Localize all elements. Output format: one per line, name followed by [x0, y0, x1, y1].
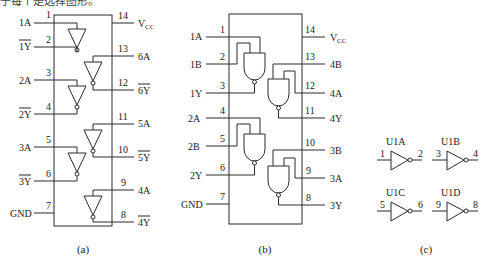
inverter-6-icon — [84, 56, 112, 90]
pin-label: 2A — [188, 113, 201, 124]
nand-gate-3-icon — [268, 150, 302, 205]
pin-num: 5 — [380, 199, 385, 210]
pin-label: 3A — [330, 173, 343, 184]
pin-num: 9 — [436, 199, 441, 210]
pin-num: 3 — [436, 148, 441, 159]
pin-num: 2 — [220, 51, 225, 62]
pin-num: 10 — [118, 144, 128, 155]
diagram-canvas: 1 1A 2 1Y 3 2A 4 2Y 5 3A 6 3Y 7 GND 14 V… — [0, 0, 486, 270]
pin-num: 3 — [220, 80, 225, 91]
pin-label: 4A — [138, 185, 151, 196]
pin-label-sub: CC — [145, 23, 155, 31]
inverter-u1c-icon: U1C 5 6 — [377, 187, 423, 221]
pin-label: 1A — [19, 17, 32, 28]
pin-label: 6A — [138, 51, 151, 62]
pin-num: 4 — [220, 105, 225, 116]
pin-num: 1 — [46, 9, 51, 20]
pin-num: 5 — [220, 133, 225, 144]
pin-num: 6 — [46, 168, 51, 179]
pin-num: 11 — [118, 111, 128, 122]
pin-label: 2B — [188, 141, 200, 152]
pin-num: 12 — [118, 77, 128, 88]
pin-label: 6Y — [138, 85, 150, 96]
pin-label: 4Y — [330, 113, 342, 124]
pin-label: 5Y — [138, 152, 150, 163]
nand-gate-1-icon — [229, 37, 265, 93]
pin-num: 1 — [380, 148, 385, 159]
pin-label: 2A — [19, 75, 32, 86]
pin-num: 9 — [121, 177, 126, 188]
part-name: U1A — [386, 136, 406, 147]
pin-num: 4 — [473, 148, 478, 159]
pin-label: 5A — [138, 118, 151, 129]
ic-body-b — [229, 14, 302, 224]
pin-num: 7 — [220, 191, 225, 202]
pin-label: GND — [10, 208, 32, 219]
pin-label: 3B — [330, 145, 342, 156]
pin-num: 2 — [46, 34, 51, 45]
pin-num: 13 — [305, 51, 315, 62]
nand-gate-2-icon — [229, 118, 265, 175]
pin-label: 4B — [330, 59, 342, 70]
figure-a-hex-inverter: 1 1A 2 1Y 3 2A 4 2Y 5 3A 6 3Y 7 GND 14 V… — [10, 9, 155, 228]
pin-num: 12 — [305, 80, 315, 91]
pin-label: 2Y — [19, 109, 31, 120]
inverter-u1d-icon: U1D 9 8 — [432, 187, 478, 221]
pin-num: 14 — [118, 10, 128, 21]
pin-num: 9 — [306, 165, 311, 176]
figure-c-inverter-symbols: U1A 1 2 U1B 3 4 U1C 5 6 — [377, 136, 478, 221]
pin-label: 4A — [330, 88, 343, 99]
pin-num: 2 — [418, 148, 423, 159]
pin-label: 1Y — [190, 88, 202, 99]
pin-num: 8 — [306, 192, 311, 203]
pin-label: 2Y — [190, 170, 202, 181]
part-name: U1C — [386, 187, 405, 198]
pin-num: 6 — [220, 162, 225, 173]
caption-a: (a) — [77, 243, 90, 256]
pin-label: GND — [181, 199, 203, 210]
pin-num: 1 — [220, 24, 225, 35]
pin-label: 3Y — [19, 176, 31, 187]
inverter-3-icon — [54, 147, 86, 181]
caption-c: (c) — [420, 243, 433, 256]
caption-b: (b) — [259, 243, 272, 256]
pin-label: 3Y — [330, 200, 342, 211]
inverter-2-icon — [54, 80, 86, 114]
pin-label: 1Y — [19, 41, 31, 52]
figure-b-quad-nand: 1 1A 2 1B 3 1Y 4 2A 5 2B 6 2Y 7 GND 14 V… — [181, 14, 347, 224]
part-name: U1D — [441, 187, 460, 198]
pin-num: 10 — [305, 137, 315, 148]
pin-num: 14 — [305, 24, 315, 35]
pin-label: 4Y — [138, 217, 150, 228]
inverter-1-icon — [54, 23, 86, 52]
nand-gate-4-icon — [268, 64, 302, 118]
pin-num: 4 — [46, 101, 51, 112]
pin-num: 6 — [418, 199, 423, 210]
pin-num: 11 — [305, 105, 315, 116]
pin-label-sub: CC — [337, 37, 347, 45]
pin-label: 3A — [19, 142, 32, 153]
pin-num: 3 — [46, 67, 51, 78]
pin-num: 7 — [46, 200, 51, 211]
inverter-5-icon — [84, 124, 112, 157]
pin-label: 1B — [190, 59, 202, 70]
inverter-u1a-icon: U1A 1 2 — [377, 136, 423, 170]
part-name: U1B — [441, 136, 460, 147]
inverter-4-icon — [84, 190, 112, 222]
pin-num: 5 — [46, 134, 51, 145]
pin-num: 13 — [118, 43, 128, 54]
inverter-u1b-icon: U1B 3 4 — [432, 136, 478, 170]
pin-label: 1A — [190, 31, 203, 42]
pin-num: 8 — [473, 199, 478, 210]
pin-num: 8 — [121, 209, 126, 220]
